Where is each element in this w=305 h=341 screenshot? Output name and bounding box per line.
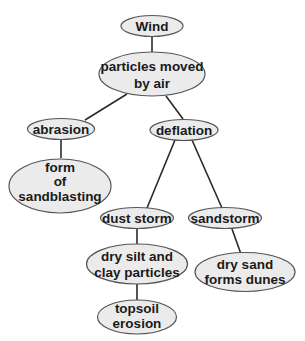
node-sandstorm: sandstorm: [189, 208, 262, 229]
node-label: topsoil: [115, 301, 159, 316]
node-dry-silt-and-clay-particles: dry silt and clay particles: [87, 244, 188, 284]
node-deflation: deflation: [150, 120, 218, 141]
node-label: sandstorm: [190, 211, 259, 226]
concept-map: Wind particles moved by air abrasion def…: [0, 0, 305, 341]
node-label: forms dunes: [204, 272, 285, 287]
node-label: dry sand: [217, 257, 273, 272]
node-label: deflation: [156, 123, 212, 138]
edge-deflation-dust-storm: [147, 140, 175, 208]
node-label: dust storm: [102, 211, 172, 226]
node-abrasion: abrasion: [28, 119, 95, 140]
edge-particles-abrasion: [85, 94, 127, 120]
node-dry-sand-forms-dunes: dry sand forms dunes: [195, 253, 295, 292]
node-topsoil-erosion: topsoil erosion: [98, 300, 177, 334]
edge-deflation-sandstorm: [192, 140, 222, 208]
node-label: of: [54, 174, 67, 189]
edge-particles-deflation: [166, 96, 183, 119]
node-label: particles moved: [101, 59, 204, 74]
node-label: by air: [134, 76, 171, 91]
node-label: form: [45, 160, 75, 175]
node-wind: Wind: [121, 16, 183, 37]
edge-sandstorm-dry-sand: [232, 229, 241, 254]
node-label: abrasion: [33, 122, 89, 137]
node-sandblasting-line3: sandblasting: [18, 189, 101, 204]
node-particles-moved-by-air: particles moved by air: [99, 52, 205, 96]
node-dust-storm: dust storm: [101, 208, 174, 229]
node-label: erosion: [113, 316, 162, 331]
node-label: dry silt and: [101, 249, 173, 264]
node-label: sandblasting: [18, 189, 101, 204]
node-label: Wind: [136, 19, 169, 34]
node-form-of-sandblasting: form of: [9, 159, 111, 213]
node-label: clay particles: [94, 265, 180, 280]
